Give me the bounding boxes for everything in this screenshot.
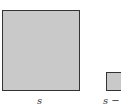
large-square <box>2 10 80 91</box>
small-square <box>106 72 121 91</box>
large-square-label: s <box>37 95 42 106</box>
small-square-label: s − <box>103 95 120 106</box>
